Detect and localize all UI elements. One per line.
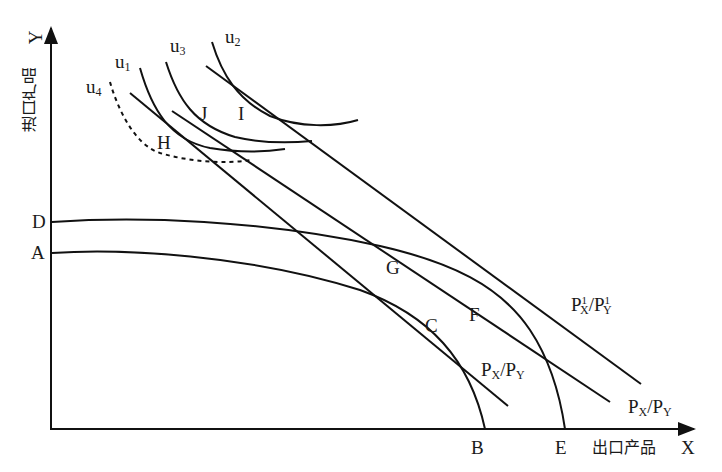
u4-label: u4 — [86, 77, 102, 98]
price-label-new: P1X/P1Y — [571, 295, 612, 316]
y-axis-label: 进口产品 — [23, 68, 39, 132]
u1-label: u1 — [115, 52, 131, 73]
ppf-expanded-curve — [52, 220, 565, 429]
diagram-canvas — [0, 0, 722, 472]
point-i-label: I — [238, 104, 244, 123]
x-axis-label: 出口产品 — [592, 440, 656, 456]
price-label-c: PX/PY — [481, 360, 525, 381]
point-a-label: A — [31, 243, 45, 262]
point-b-label: B — [471, 438, 484, 457]
point-c-label: C — [425, 316, 438, 335]
point-j-label: J — [200, 104, 207, 123]
indifference-curve-u2 — [212, 42, 358, 125]
u3-label: u3 — [170, 36, 186, 57]
u2-label: u2 — [225, 27, 241, 48]
point-h-label: H — [157, 133, 171, 152]
point-g-label: G — [386, 258, 400, 277]
point-f-label: F — [469, 305, 480, 324]
x-axis-symbol: X — [681, 438, 695, 457]
ppf-original-curve — [52, 252, 485, 429]
y-axis-symbol: Y — [26, 31, 45, 45]
price-label-f: PX/PY — [628, 397, 672, 418]
point-d-label: D — [32, 212, 46, 231]
point-e-label: E — [555, 438, 567, 457]
